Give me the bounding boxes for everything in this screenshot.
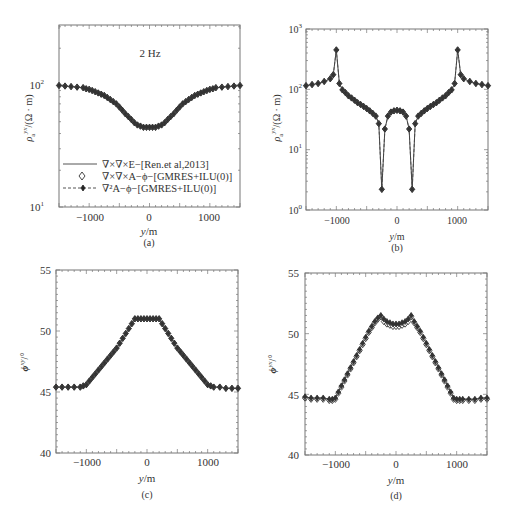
yaxis-label-a: ρayx/(Ω · m) bbox=[21, 94, 37, 142]
ytick-label-c-55: 55 bbox=[40, 264, 52, 276]
ytick-label-a-10: 101 bbox=[30, 200, 45, 213]
tick-marks-b bbox=[306, 29, 488, 210]
data-series-b bbox=[303, 47, 490, 193]
frequency-annotation: 2 Hz bbox=[139, 47, 160, 59]
ytick-label-b-1: 100 bbox=[289, 203, 303, 216]
panel-caption-a: (a) bbox=[143, 237, 154, 249]
ytick-label-b-1000: 103 bbox=[289, 22, 303, 35]
xtick-label-d-1000: 1000 bbox=[446, 458, 469, 470]
ytick-label-d-50: 50 bbox=[288, 328, 300, 340]
panel-b: 103 102 101 100 −1000 0 1000 y/m (b) ρay… bbox=[269, 22, 491, 254]
xtick-label-b-neg1000: −1000 bbox=[324, 215, 350, 226]
ytick-label-d-45: 45 bbox=[288, 389, 300, 401]
panel-c: 55 50 45 40 −1000 0 1000 y/m (c) ϕxy/° bbox=[18, 264, 241, 501]
xaxis-label-b: y/m bbox=[388, 231, 404, 242]
xaxis-label-a: y/m bbox=[140, 225, 158, 237]
legend-label-ren: ∇×∇×E−[Ren.et al,2013] bbox=[102, 159, 209, 170]
tick-marks-d bbox=[305, 273, 487, 455]
xtick-label-d-0: 0 bbox=[393, 458, 399, 470]
ytick-label-b-100: 102 bbox=[289, 82, 303, 95]
xtick-label-d-neg1000: −1000 bbox=[322, 458, 351, 470]
panel-caption-d: (d) bbox=[390, 490, 402, 502]
yaxis-label-c: ϕxy/° bbox=[18, 353, 30, 372]
data-series-d bbox=[302, 312, 489, 403]
ytick-label-c-40: 40 bbox=[40, 447, 52, 459]
xaxis-label-d: y/m bbox=[387, 474, 405, 486]
xtick-label-c-1000: 1000 bbox=[197, 456, 220, 468]
ytick-label-c-45: 45 bbox=[40, 386, 52, 398]
ytick-label-b-10: 101 bbox=[289, 142, 303, 155]
xtick-label-b-1000: 1000 bbox=[447, 215, 467, 226]
figure-canvas: 2 Hz 102 101 −1000 0 1000 y/m (a) ρayx/(… bbox=[0, 0, 507, 522]
xtick-label-c-0: 0 bbox=[144, 456, 150, 468]
data-series-c bbox=[53, 316, 240, 392]
xtick-label-a-neg1000: −1000 bbox=[76, 211, 105, 223]
yaxis-label-d: ϕyx/° bbox=[266, 355, 278, 374]
legend-label-curlcurl-a: ∇×∇×A−ϕ−[GMRES+ILU(0)] bbox=[102, 171, 232, 183]
xtick-label-a-0: 0 bbox=[146, 211, 152, 223]
xtick-label-c-neg1000: −1000 bbox=[73, 456, 102, 468]
xtick-label-b-0: 0 bbox=[395, 215, 400, 226]
xaxis-label-c: y/m bbox=[138, 472, 156, 484]
panel-a: 2 Hz 102 101 −1000 0 1000 y/m (a) ρayx/(… bbox=[21, 25, 243, 249]
panel-d: 55 50 45 40 −1000 0 1000 y/m (d) ϕyx/° bbox=[266, 267, 490, 502]
ytick-label-d-55: 55 bbox=[288, 267, 300, 279]
ytick-label-c-50: 50 bbox=[40, 325, 52, 337]
plot-frame-c bbox=[56, 270, 238, 453]
yaxis-label-b: ρayx/(Ω · m) bbox=[269, 94, 285, 142]
data-series-a bbox=[56, 82, 242, 130]
panel-caption-c: (c) bbox=[141, 489, 152, 501]
legend-open-diamond-icon bbox=[79, 172, 85, 180]
plot-frame-d bbox=[305, 273, 487, 455]
panel-caption-b: (b) bbox=[391, 242, 403, 254]
ytick-label-d-40: 40 bbox=[288, 449, 300, 461]
ytick-label-a-100: 102 bbox=[30, 78, 45, 91]
plot-frame-b bbox=[306, 29, 488, 210]
tick-marks-c bbox=[56, 270, 238, 453]
xtick-label-a-1000: 1000 bbox=[198, 211, 221, 223]
legend-star-marker-icon bbox=[81, 185, 85, 191]
legend-a: ∇×∇×E−[Ren.et al,2013] ∇×∇×A−ϕ−[GMRES+IL… bbox=[63, 159, 232, 195]
legend-label-laplacian: ∇²A−ϕ−[GMRES+ILU(0)] bbox=[102, 183, 216, 195]
